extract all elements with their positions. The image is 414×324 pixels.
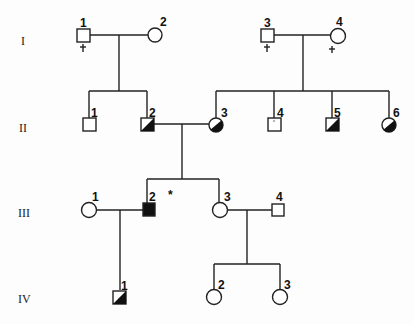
individual-III-1[interactable]: 1	[82, 190, 100, 218]
male-symbol	[77, 29, 90, 42]
individual-number: 6	[393, 106, 400, 120]
individual-II-3[interactable]: 3	[209, 106, 228, 135]
generation-label-IV: IV	[18, 292, 31, 306]
individual-number: 4	[277, 106, 284, 120]
individual-II-2[interactable]: 2	[141, 106, 156, 131]
generation-label-I: I	[21, 34, 25, 48]
individual-IV-1[interactable]: 1	[113, 279, 128, 304]
individual-number: 1	[121, 279, 128, 293]
female-symbol	[148, 28, 162, 42]
affected-male-symbol	[143, 203, 155, 216]
individual-I-4[interactable]: 4	[329, 15, 346, 53]
individual-I-3[interactable]: 3	[261, 16, 274, 52]
generation-label-III: III	[18, 206, 30, 220]
individual-I-1[interactable]: 1	[77, 16, 90, 52]
pedigree-chart: I II III IV 1	[0, 0, 414, 324]
female-symbol	[213, 203, 228, 218]
individual-number: 5	[334, 106, 341, 120]
individual-II-6[interactable]: 6	[382, 106, 400, 135]
individual-number: 3	[224, 190, 231, 204]
proband-asterisk-icon: *	[168, 188, 173, 202]
individual-number: 4	[276, 190, 283, 204]
generation-label-II: II	[19, 121, 27, 135]
individual-number: 1	[92, 190, 99, 204]
individual-III-3[interactable]: 3	[213, 190, 232, 218]
individual-number: 4	[336, 15, 343, 29]
individual-I-2[interactable]: 2	[148, 15, 167, 42]
individual-number: 3	[221, 106, 228, 120]
individual-II-5[interactable]: 5	[326, 106, 341, 131]
individual-number: 2	[149, 190, 156, 204]
individual-IV-3[interactable]: 3	[273, 278, 292, 305]
individual-II-4[interactable]: 4	[268, 106, 284, 131]
individual-number: 3	[264, 16, 271, 30]
individual-number: 1	[80, 16, 87, 30]
male-symbol	[261, 29, 274, 42]
pedigree-canvas: I II III IV 1	[0, 0, 414, 324]
individual-III-4[interactable]: 4	[272, 190, 284, 216]
male-symbol	[272, 204, 284, 216]
female-symbol	[82, 203, 97, 218]
individual-number: 2	[218, 278, 225, 292]
connector-lines	[89, 35, 389, 290]
female-symbol	[331, 29, 346, 44]
individual-number: 2	[160, 15, 167, 29]
individual-II-1[interactable]: 1	[83, 106, 98, 131]
individual-number: 2	[149, 106, 156, 120]
individual-number: 1	[91, 106, 98, 120]
individual-IV-2[interactable]: 2	[207, 278, 226, 305]
individual-number: 3	[284, 278, 291, 292]
